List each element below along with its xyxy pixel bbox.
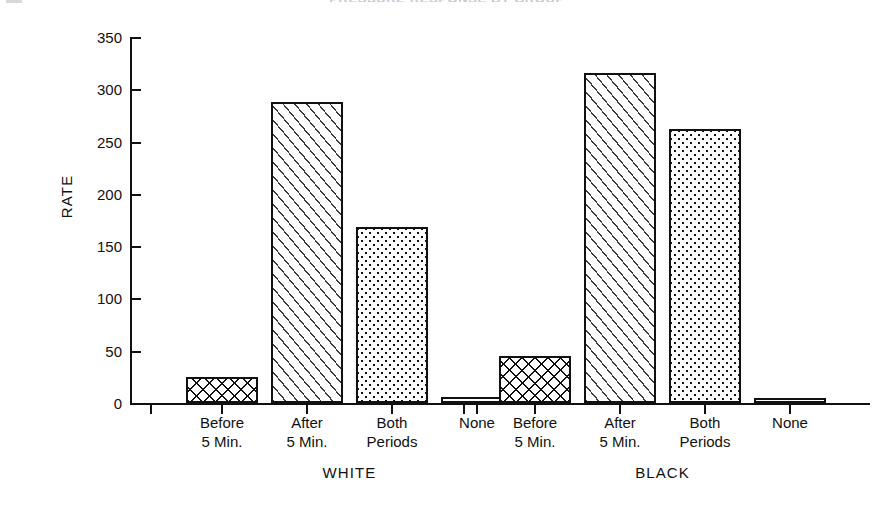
y-tick-label-200: 200 — [82, 187, 122, 202]
bar-black-2 — [669, 129, 741, 403]
bar-black-3 — [754, 398, 826, 403]
y-tick-label-150: 150 — [82, 239, 122, 254]
y-axis-tick-labels: 050100150200250300350 — [76, 38, 122, 405]
bar-white-0 — [186, 377, 258, 403]
category-label-line2: Periods — [340, 432, 444, 451]
y-tick-label-250: 250 — [82, 135, 122, 150]
y-tick-label-100: 100 — [82, 291, 122, 306]
chart-title: PRESSURE RESPONSE BY GROUP — [0, 0, 894, 2]
y-tick-250 — [130, 142, 141, 144]
bar-white-1 — [271, 102, 343, 403]
x-axis-line — [130, 403, 870, 405]
y-tick-0 — [130, 403, 141, 405]
category-label-line1: None — [738, 413, 842, 432]
group-label-white: WHITE — [270, 464, 430, 481]
y-tick-label-350: 350 — [82, 30, 122, 45]
y-tick-label-300: 300 — [82, 82, 122, 97]
x-tick-group-start-0 — [150, 403, 152, 414]
group-label-black: BLACK — [583, 464, 743, 481]
bar-black-0 — [499, 356, 571, 403]
y-tick-150 — [130, 246, 141, 248]
chart-figure: PRESSURE RESPONSE BY GROUP 0501001502002… — [0, 0, 894, 515]
category-label-black-3: None — [738, 413, 842, 432]
category-label-line2: Periods — [653, 432, 757, 451]
y-tick-label-0: 0 — [82, 396, 122, 411]
bar-white-2 — [356, 227, 428, 403]
y-tick-300 — [130, 89, 141, 91]
plot-area: 050100150200250300350 RATE — [130, 38, 870, 404]
y-tick-label-50: 50 — [82, 344, 122, 359]
y-tick-50 — [130, 351, 141, 353]
y-tick-200 — [130, 194, 141, 196]
y-axis-title: RATE — [58, 157, 75, 237]
y-tick-350 — [130, 37, 141, 39]
bar-black-1 — [584, 73, 656, 403]
y-tick-100 — [130, 298, 141, 300]
